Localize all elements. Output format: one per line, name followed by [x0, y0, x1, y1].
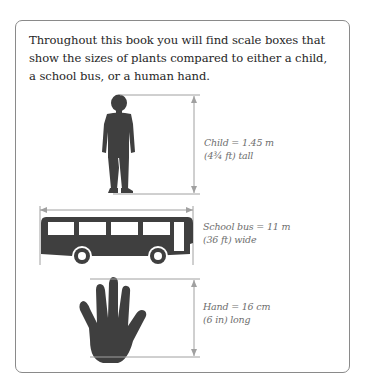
hand-scale-label: Hand = 16 cm (6 in) long [203, 300, 270, 326]
scale-illustrations [0, 0, 366, 391]
hand-scale-imperial: (6 in) long [203, 313, 270, 326]
child-scale-label: Child = 1.45 m (4¾ ft) tall [204, 136, 274, 162]
bus-scale-label: School bus = 11 m (36 ft) wide [203, 220, 290, 246]
child-scale-measure: Child = 1.45 m [204, 136, 274, 149]
hand-silhouette-icon [79, 277, 146, 363]
hand-scale-measure: Hand = 16 cm [203, 300, 270, 313]
bus-scale-measure: School bus = 11 m [203, 220, 290, 233]
child-scale-imperial: (4¾ ft) tall [204, 149, 274, 162]
child-silhouette-icon [102, 95, 135, 194]
bus-scale-imperial: (36 ft) wide [203, 233, 290, 246]
bus-silhouette-icon [41, 217, 193, 266]
